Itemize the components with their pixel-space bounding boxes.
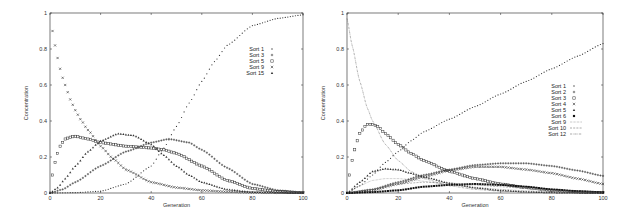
- x-tick-label: 20: [395, 195, 401, 201]
- chart-right-sort-concentrations: 02040608010000.20.40.60.81GenerationConc…: [0, 0, 620, 220]
- legend: Sort 1Sort 2Sort 3Sort 4Sort 5Sort 6Sort…: [548, 83, 582, 137]
- x-tick-label: 60: [498, 195, 504, 201]
- legend-label: Sort 12: [548, 131, 566, 137]
- y-tick-label: 0.8: [336, 46, 344, 52]
- y-tick-label: 0: [341, 190, 344, 196]
- x-tick-label: 80: [549, 195, 555, 201]
- axis-ticks: 02040608010000.20.40.60.81: [336, 10, 607, 201]
- y-axis-label: Concentration: [320, 86, 326, 120]
- y-tick-label: 0.6: [336, 82, 344, 88]
- y-tick-label: 1: [341, 10, 344, 16]
- y-tick-label: 0.4: [336, 118, 344, 124]
- x-tick-label: 40: [446, 195, 452, 201]
- x-tick-label: 0: [345, 195, 348, 201]
- x-axis-label: Generation: [461, 202, 488, 208]
- figure: 02040608010000.20.40.60.81GenerationConc…: [0, 0, 620, 220]
- y-tick-label: 0.2: [336, 154, 344, 160]
- x-tick-label: 100: [598, 195, 607, 201]
